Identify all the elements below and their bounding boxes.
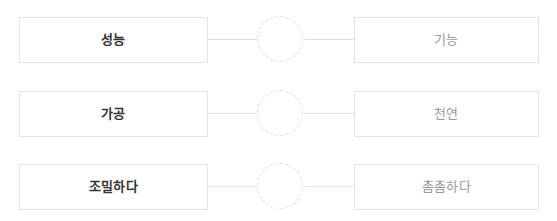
left-term-box[interactable]: 성능: [19, 17, 208, 63]
left-term-box[interactable]: 조밀하다: [19, 164, 208, 210]
match-row: 가공 천연: [0, 90, 557, 137]
left-term-label: 가공: [101, 107, 125, 120]
right-term-box[interactable]: 촘촘하다: [354, 164, 539, 210]
right-term-label: 기능: [434, 33, 458, 46]
match-row: 성능 기능: [0, 16, 557, 63]
connector-line-left: [208, 39, 257, 40]
right-term-label: 천연: [434, 107, 458, 120]
connector-line-right: [305, 113, 354, 114]
dashed-circle-icon[interactable]: [257, 16, 303, 62]
connector-line-left: [208, 186, 257, 187]
row-connector: [208, 16, 354, 62]
left-term-label: 조밀하다: [89, 180, 138, 193]
right-term-box[interactable]: 천연: [354, 91, 539, 137]
match-row: 조밀하다 촘촘하다: [0, 163, 557, 210]
connector-line-left: [208, 113, 257, 114]
connector-line-right: [305, 186, 354, 187]
row-connector: [208, 163, 354, 209]
connector-line-right: [305, 39, 354, 40]
right-term-box[interactable]: 기능: [354, 17, 539, 63]
left-term-box[interactable]: 가공: [19, 91, 208, 137]
right-term-label: 촘촘하다: [422, 180, 471, 193]
left-term-label: 성능: [101, 33, 125, 46]
matching-exercise: 성능 기능 가공 천연 조밀하다: [0, 0, 557, 221]
dashed-circle-icon[interactable]: [257, 90, 303, 136]
dashed-circle-icon[interactable]: [257, 163, 303, 209]
row-connector: [208, 90, 354, 136]
